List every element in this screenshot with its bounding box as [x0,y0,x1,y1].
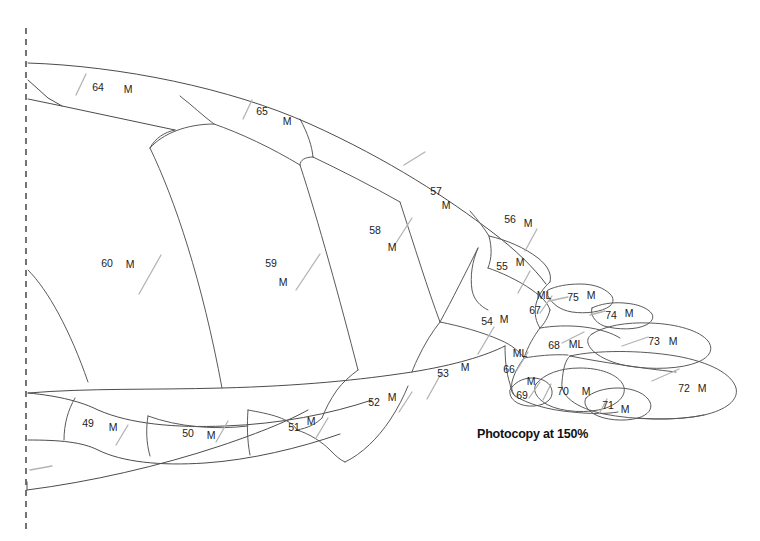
segment-number-69: 69 [516,389,528,401]
segment-code-50: M [207,429,216,441]
segment-number-65: 65 [256,105,268,117]
segment-code-67: ML [537,289,552,301]
boundary-58-57 [400,202,440,322]
segment-number-72: 72 [678,382,690,394]
arc-57-crest [300,157,313,165]
boundary-57-54 [440,248,478,322]
anatomical-diagram: 64M65M60M59M58M57M56M55M54M53M52M51M50M4… [0,0,760,541]
cell-54-53-divider [412,322,440,372]
segment-code-72: M [698,382,707,394]
segment-code-58: M [388,241,397,253]
segment-number-73: 73 [648,335,660,347]
segment-code-55: M [516,256,525,268]
division-57-56 [470,211,489,236]
segment-code-73: M [669,335,678,347]
segment-number-55: 55 [496,260,508,272]
segment-code-65: M [283,115,292,127]
cell-56-56-55-divider [488,236,491,268]
segment-number-70: 70 [557,385,569,397]
segment-code-52: M [388,391,397,403]
segment-code-69: M [527,375,536,387]
tick-lower-left [30,466,52,470]
cell-68-lower-bound [524,355,568,358]
divider-49-left [64,398,75,440]
segment-code-71: M [621,403,630,415]
segment-number-66: 66 [503,363,515,375]
cell-74-outline [592,303,653,329]
cell-71-outline [585,388,651,420]
segment-code-49: M [109,421,118,433]
segment-number-49: 49 [82,417,94,429]
segment-number-64: 64 [92,81,104,93]
segment-number-56: 56 [504,213,516,225]
segment-code-54: M [500,313,509,325]
segment-number-74: 74 [605,309,617,321]
leader-tick-49 [116,425,128,445]
segment-code-70: M [582,385,591,397]
segment-number-54: 54 [481,315,493,327]
boundary-59-58 [300,165,358,370]
segment-number-57: 57 [430,185,442,197]
leader-tick-57 [404,152,425,165]
arc-under-65 [214,124,300,165]
leader-tick-75 [549,297,568,301]
segment-code-53: M [461,361,470,373]
cell-72-inner-fold [570,356,676,372]
boundary-60-left [28,270,88,382]
segment-labels: 64M65M60M59M58M57M56M55M54M53M52M51M50M4… [82,81,706,441]
segment-number-52: 52 [368,396,380,408]
segment-number-50: 50 [182,427,194,439]
segment-code-75: M [587,289,596,301]
leader-tick-50 [216,421,228,442]
segment-code-74: M [625,307,634,319]
boundary-60-59 [150,148,222,388]
segment-code-56: M [524,217,533,229]
segment-code-57: M [442,199,451,211]
label-tick-marks [30,74,679,470]
cell-75-outline [548,284,613,313]
segment-number-51: 51 [288,421,300,433]
segment-number-71: 71 [602,399,614,411]
cell-67-right [540,310,550,328]
cell-68-region [540,326,620,338]
segment-number-60: 60 [101,257,113,269]
dorsal-contour [28,63,546,284]
segment-code-68: ML [569,338,584,350]
segment-number-59: 59 [265,257,277,269]
anterior-notch-base [28,99,175,130]
boundary-53-52 [322,370,358,418]
photocopy-note: Photocopy at 150% [477,427,588,441]
segment-number-68: 68 [548,339,560,351]
segment-number-67: 67 [529,304,541,316]
divider-51-50 [247,410,250,455]
leader-tick-59 [296,254,320,290]
divider-50-49 [147,416,150,456]
segment-code-51: M [307,415,316,427]
appendage-band-top [28,393,372,426]
leader-tick-56 [525,229,537,251]
segment-code-66: ML [513,347,528,359]
leader-tick-73 [622,337,648,346]
division-64-65 [180,96,214,124]
segment-number-53: 53 [437,367,449,379]
arc-under-57 [313,157,400,202]
leader-tick-64 [76,74,86,95]
segment-code-59: M [279,276,288,288]
figure-page: 64M65M60M59M58M57M56M55M54M53M52M51M50M4… [0,0,760,541]
leader-tick-70 [543,384,551,400]
cell-54-lower [440,322,524,358]
leader-tick-65 [243,100,252,119]
segment-number-75: 75 [567,291,579,303]
leader-tick-60 [139,255,161,294]
segment-code-64: M [124,83,133,95]
segment-number-58: 58 [369,224,381,236]
ventral-contour [28,346,505,393]
leader-tick-54 [478,327,494,354]
segment-code-60: M [126,258,135,270]
